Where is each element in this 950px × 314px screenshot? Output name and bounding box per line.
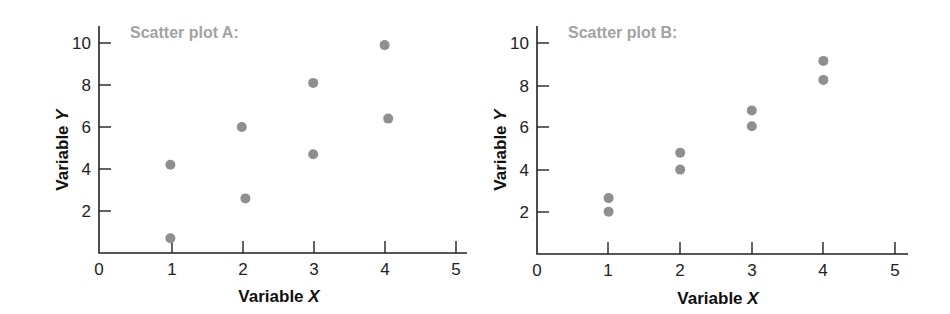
x-axis-title: Variable X (677, 289, 760, 308)
scatter-plots-figure: Scatter plot A: 2 4 6 8 10 0 1 (0, 0, 950, 314)
x-tick-label: 3 (747, 261, 756, 280)
y-axis-title: Variable Y (53, 108, 72, 191)
data-point (604, 193, 614, 203)
axes-lines (537, 26, 908, 254)
y-tick-label: 8 (82, 76, 91, 95)
x-tick-label: 4 (380, 260, 389, 279)
data-point (818, 56, 828, 66)
data-point (747, 106, 757, 116)
y-axis-tick-labels: 2 4 6 8 10 (510, 34, 529, 222)
y-tick-label: 2 (82, 202, 91, 221)
scatter-plot-b: Scatter plot B: 2 4 6 8 10 0 1 2 (491, 24, 908, 308)
data-point (165, 160, 175, 170)
x-tick-label: 0 (94, 260, 103, 279)
x-tick-label: 2 (675, 261, 684, 280)
y-axis-ticks (537, 43, 549, 212)
y-tick-label: 2 (520, 203, 529, 222)
data-point (818, 75, 828, 85)
y-tick-label: 4 (82, 160, 91, 179)
x-tick-label: 2 (238, 260, 247, 279)
x-tick-label: 5 (890, 261, 899, 280)
data-point (675, 148, 685, 158)
x-tick-label: 0 (532, 261, 541, 280)
data-point (237, 122, 247, 132)
y-axis-tick-labels: 2 4 6 8 10 (72, 34, 91, 221)
x-axis-tick-labels: 0 1 2 3 4 5 (532, 261, 899, 280)
data-point (383, 114, 393, 124)
x-axis-tick-labels: 0 1 2 3 4 5 (94, 260, 460, 279)
y-tick-label: 10 (510, 34, 529, 53)
axes-lines (99, 26, 467, 253)
x-axis-title: Variable X (238, 287, 321, 306)
data-point (165, 233, 175, 243)
y-axis-title: Variable Y (491, 108, 510, 191)
x-axis-ticks (172, 241, 456, 253)
y-tick-label: 8 (520, 77, 529, 96)
data-point (308, 78, 318, 88)
data-point (604, 207, 614, 217)
data-point (308, 149, 318, 159)
plot-title: Scatter plot B: (568, 24, 677, 41)
y-tick-label: 6 (82, 118, 91, 137)
data-point (380, 40, 390, 50)
data-points (604, 56, 829, 217)
x-tick-label: 4 (818, 261, 827, 280)
y-tick-label: 4 (520, 161, 529, 180)
data-point (675, 165, 685, 175)
data-points (165, 40, 393, 243)
x-tick-label: 5 (451, 260, 460, 279)
x-tick-label: 1 (167, 260, 176, 279)
data-point (240, 193, 250, 203)
y-axis-ticks (99, 43, 111, 211)
data-point (747, 121, 757, 131)
scatter-plot-a: Scatter plot A: 2 4 6 8 10 0 1 (53, 24, 467, 306)
x-axis-ticks (608, 242, 895, 254)
plot-title: Scatter plot A: (130, 24, 239, 41)
y-tick-label: 6 (520, 118, 529, 137)
x-tick-label: 3 (309, 260, 318, 279)
x-tick-label: 1 (603, 261, 612, 280)
y-tick-label: 10 (72, 34, 91, 53)
